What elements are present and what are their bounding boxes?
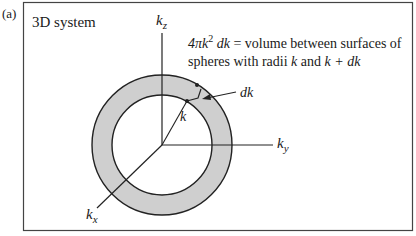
outer-point xyxy=(195,83,199,87)
annotation-k2: k + dk xyxy=(324,54,361,69)
ky-label-sub: y xyxy=(283,142,289,154)
figure-title: 3D system xyxy=(32,14,96,30)
annotation-line-2: spheres with radii k and k + dk xyxy=(188,54,361,69)
panel-label: (a) xyxy=(2,6,16,21)
annotation-part1: spheres with radii xyxy=(188,54,291,69)
annotation-part2: and xyxy=(297,54,324,69)
annotation-prefix: 4πk xyxy=(188,36,209,51)
radius-label: k xyxy=(180,109,187,124)
annotation-rest: = volume between surfaces of xyxy=(230,36,402,51)
diagram-canvas: (a) 3D system k dk kz ky kx 4πk2 dk = vo… xyxy=(0,0,416,236)
annotation-line-1: 4πk2 dk = volume between surfaces of xyxy=(188,33,402,51)
kx-label-sub: x xyxy=(92,213,98,225)
dk-label: dk xyxy=(240,85,254,100)
kz-label-sub: z xyxy=(162,19,168,31)
annotation-dk: dk xyxy=(213,36,231,51)
